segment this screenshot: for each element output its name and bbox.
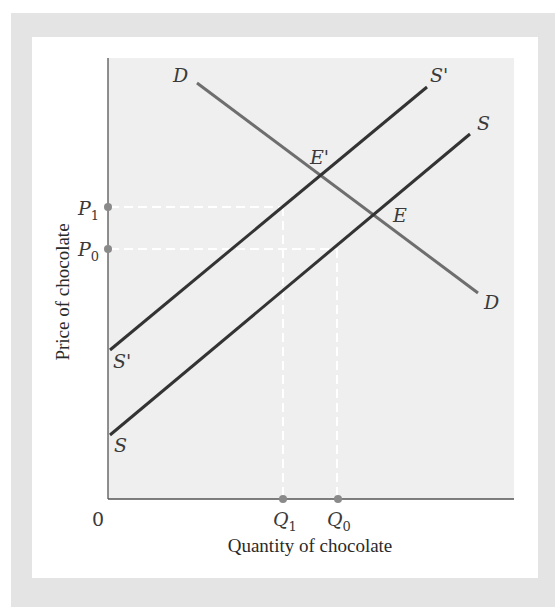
x-axis-label: Quantity of chocolate [228,535,393,557]
supply-shifted-end-label: S' [430,64,448,86]
demand-start-label: D [172,64,188,86]
p0-dot [104,245,112,253]
q1-dot [279,495,287,503]
q1-label: Q1 [273,508,297,534]
q0-label: Q0 [327,508,351,534]
plot-area [108,58,514,499]
origin-label: 0 [92,508,104,530]
original-equilibrium-label: E [392,204,407,226]
p1-label: P1 [77,197,99,223]
p0-label: P0 [77,238,99,264]
demand-end-label: D [483,291,499,313]
new-equilibrium-label: E' [309,146,329,168]
supply-start-label: S [114,434,127,456]
supply-end-label: S [477,112,490,134]
supply-demand-diagram: D D S' S' S S E' E P1 P0 Q1 Q0 0 [0,0,555,607]
q0-dot [334,495,342,503]
p1-dot [104,203,112,211]
y-axis-label: Price of chocolate [52,223,74,360]
supply-shifted-start-label: S' [113,350,131,372]
